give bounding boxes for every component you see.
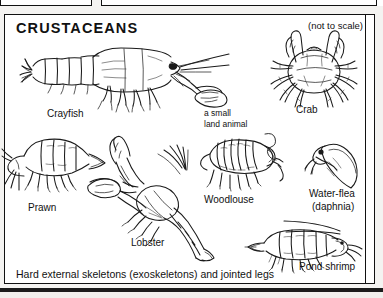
waterflea-label-alt: (daphnia) (312, 201, 354, 212)
crab-illustration (262, 28, 370, 108)
lobster-label: Lobster (131, 237, 164, 248)
woodlouse-note-line1: a small (204, 108, 231, 119)
prawn-label: Prawn (28, 202, 56, 213)
pondshrimp-illustration (236, 215, 368, 267)
woodlouse-illustration (196, 132, 286, 190)
woodlouse-note-line2: land animal (204, 119, 247, 130)
waterflea-illustration (303, 138, 365, 190)
page-bleed-box-right-edge (376, 0, 383, 6)
page-bleed-box-right (101, 0, 383, 6)
panel-caption: Hard external skeletons (exoskeletons) a… (16, 268, 274, 280)
crab-label: Crab (296, 104, 318, 115)
pondshrimp-label: Pond shrimp (299, 261, 355, 272)
page-bleed-box-left (0, 0, 92, 6)
crayfish-illustration (24, 36, 229, 114)
woodlouse-label: Woodlouse (204, 194, 254, 205)
page-title: CRUSTACEANS (16, 20, 138, 36)
crayfish-label: Crayfish (47, 108, 84, 119)
page-bottom-margin (0, 292, 383, 298)
waterflea-label: Water-flea (309, 188, 355, 199)
